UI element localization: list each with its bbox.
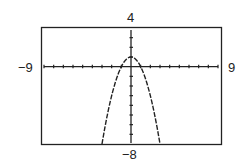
xmax-label: 9 xyxy=(228,61,235,74)
ymin-label: −8 xyxy=(122,148,137,161)
axes xyxy=(44,30,218,143)
graph-window xyxy=(0,0,242,162)
ymax-label: 4 xyxy=(127,11,134,24)
xmin-label: −9 xyxy=(18,61,33,74)
